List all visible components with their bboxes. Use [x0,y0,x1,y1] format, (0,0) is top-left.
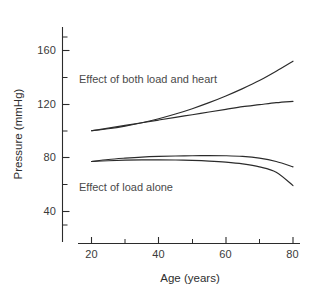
chart-figure: 160 120 80 40 20 40 60 80 Pressure (mmHg… [0,0,316,298]
x-axis-title: Age (years) [130,272,250,284]
chart-line-series-2 [92,156,294,167]
y-axis-minor-ticks [63,37,68,225]
x-axis-minor-ticks [125,239,260,244]
x-tick-label-20: 20 [76,248,107,260]
x-tick-label-80: 80 [277,248,308,260]
x-tick-label-40: 40 [143,248,174,260]
x-tick-label-60: 60 [210,248,241,260]
chart-line-series-1 [92,101,294,130]
y-tick-label-160: 160 [18,44,56,56]
annotation-effect-of-both-load-and-heart: Effect of both load and heart [79,73,217,85]
annotation-effect-of-load-alone: Effect of load alone [79,181,173,193]
y-tick-label-40: 40 [18,205,56,217]
chart-line-series-0 [92,61,294,131]
y-axis-title: Pressure (mmHg) [12,74,24,194]
